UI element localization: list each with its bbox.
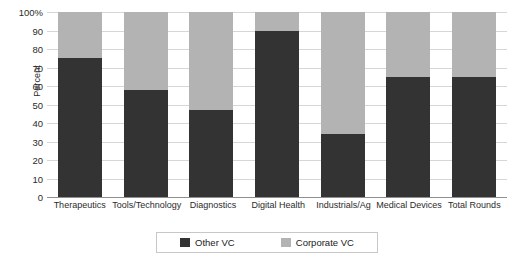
bar-segment-other-vc[interactable] [386, 77, 430, 197]
legend-swatch-icon [281, 238, 291, 247]
y-tick-label: 30 [32, 136, 43, 147]
stacked-bar-chart: Percent 100%9080706050403020100 Therapeu… [0, 0, 514, 263]
bar-segment-corporate-vc[interactable] [124, 12, 168, 90]
y-tick-label: 40 [32, 118, 43, 129]
bar-segment-other-vc[interactable] [255, 31, 299, 198]
bar-segment-other-vc[interactable] [58, 58, 102, 197]
x-tick-label: Diagnostics [180, 200, 245, 210]
legend-entry[interactable]: Other VC [180, 237, 235, 248]
legend-entry[interactable]: Corporate VC [281, 237, 354, 248]
y-tick-label: 10 [32, 173, 43, 184]
y-tick-label: 80 [32, 44, 43, 55]
bar-group[interactable] [124, 12, 168, 197]
legend-label: Other VC [195, 237, 235, 248]
bar-group[interactable] [321, 12, 365, 197]
y-tick-label: 0 [38, 192, 43, 203]
bar-segment-other-vc[interactable] [189, 110, 233, 197]
bar-segment-corporate-vc[interactable] [255, 12, 299, 31]
legend-label: Corporate VC [296, 237, 354, 248]
x-tick-label: Tools/Technology [112, 200, 180, 210]
y-tick-label: 50 [32, 99, 43, 110]
bar-group[interactable] [189, 12, 233, 197]
bar-segment-other-vc[interactable] [452, 77, 496, 197]
x-tick-label: Therapeutics [47, 200, 112, 210]
plot-area [47, 12, 507, 197]
bar-segment-corporate-vc[interactable] [58, 12, 102, 58]
y-tick-label: 20 [32, 155, 43, 166]
y-tick-label: 70 [32, 62, 43, 73]
x-tick-label: Medical Devices [376, 200, 442, 210]
bar-group[interactable] [58, 12, 102, 197]
bar-segment-other-vc[interactable] [124, 90, 168, 197]
y-tick-label: 60 [32, 81, 43, 92]
legend-swatch-icon [180, 238, 190, 247]
x-axis-tick-labels: TherapeuticsTools/TechnologyDiagnosticsD… [47, 200, 507, 218]
chart-legend: Other VCCorporate VC [156, 232, 378, 253]
x-tick-label: Total Rounds [442, 200, 507, 210]
bar-segment-other-vc[interactable] [321, 134, 365, 197]
bars-container [47, 12, 507, 197]
y-axis-tick-labels: 100%9080706050403020100 [8, 12, 43, 197]
x-tick-label: Industrials/Ag [311, 200, 376, 210]
bar-segment-corporate-vc[interactable] [321, 12, 365, 134]
bar-segment-corporate-vc[interactable] [189, 12, 233, 110]
bar-segment-corporate-vc[interactable] [452, 12, 496, 77]
gridline [47, 197, 507, 198]
y-tick-label: 90 [32, 25, 43, 36]
bar-group[interactable] [255, 12, 299, 197]
bar-segment-corporate-vc[interactable] [386, 12, 430, 77]
x-tick-label: Digital Health [246, 200, 311, 210]
bar-group[interactable] [386, 12, 430, 197]
y-tick-label: 100% [19, 7, 43, 18]
bar-group[interactable] [452, 12, 496, 197]
